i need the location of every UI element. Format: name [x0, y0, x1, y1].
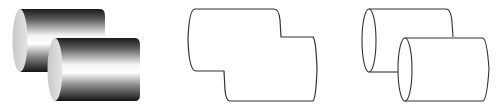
shaded-cylinders-panel [13, 9, 141, 101]
shaded-cylinder-front [48, 38, 141, 101]
silhouette-outline [188, 9, 317, 101]
wireframe-cylinder-front [398, 38, 489, 101]
wireframe-panel [362, 9, 489, 101]
cylinder-figure [0, 0, 504, 108]
silhouette-panel [188, 9, 317, 101]
